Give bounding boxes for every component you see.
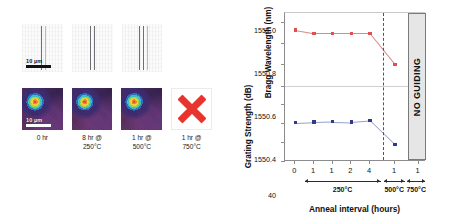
temperature-label: 750°C	[406, 186, 426, 193]
data-point	[350, 32, 353, 35]
waveguide-line-icon	[143, 26, 144, 70]
temperature-bracket-arrow	[305, 179, 308, 183]
caption-line-2: 750°C	[171, 143, 212, 152]
y-axis-tick-label: 40	[268, 191, 276, 200]
x-axis-tick-label: 4	[367, 166, 371, 175]
data-point	[331, 120, 334, 123]
sample-caption-0hr: 0 hr	[22, 134, 63, 160]
data-line-segment	[295, 122, 314, 124]
mode-noise-texture	[121, 88, 162, 130]
anneal-stability-chart: Bragg Wavelength (nm) Grating Strength (…	[222, 0, 462, 224]
x-axis-tick-label: 1	[392, 166, 396, 175]
waveguide-line-icon	[147, 26, 148, 70]
temperature-label: 500°C	[384, 186, 404, 193]
data-line-segment	[333, 33, 352, 34]
x-axis-tick: 1	[313, 160, 314, 164]
waveguide-line-icon	[90, 26, 91, 70]
caption-line-1: 8 hr @	[72, 134, 113, 143]
sample-caption-row: 0 hr 8 hr @ 250°C 1 hr @ 500°C 1 hr @ 75…	[22, 134, 212, 160]
x-axis-tick-label: 1	[415, 166, 419, 175]
y-axis-tick-label: 1551.0	[254, 26, 276, 35]
data-line-segment	[314, 33, 333, 34]
y-axis-tick: 25	[281, 161, 285, 162]
sample-caption-1hr-750c: 1 hr @ 750°C	[171, 134, 212, 160]
data-point	[368, 119, 371, 122]
data-point	[312, 120, 315, 123]
data-line-segment	[314, 122, 333, 123]
mode-profile-0hr: 10 µm	[22, 88, 63, 130]
waveguide-line-icon	[94, 26, 95, 70]
sample-caption-8hr-250c: 8 hr @ 250°C	[72, 134, 113, 160]
x-axis-line: 0112411	[284, 160, 425, 161]
mode-profile-8hr-250c	[72, 88, 113, 130]
microscope-image-1hr-500c	[122, 24, 163, 72]
mode-noise-texture	[72, 88, 113, 130]
data-point	[294, 121, 297, 124]
y-axis-tick: 40	[281, 104, 285, 105]
scale-bar-label: 10 µm	[26, 58, 66, 64]
x-axis-tick-label: 1	[330, 166, 334, 175]
data-point	[393, 143, 396, 146]
x-axis-tick: 2	[350, 160, 351, 164]
scale-bar-microscope: 10 µm	[26, 58, 66, 68]
no-guiding-label: NO GUIDING	[412, 57, 422, 116]
mode-profile-row: 10 µm	[22, 88, 212, 130]
scale-bar-mode: 10 µm	[26, 117, 51, 127]
x-axis-tick-label: 0	[292, 166, 296, 175]
mode-profile-1hr-500c	[121, 88, 162, 130]
temperature-axis: 250°C500°C750°C	[284, 178, 425, 188]
microscope-image-8hr-250c	[72, 24, 113, 72]
y-axis-tick-label: 1550.6	[254, 111, 276, 120]
y-axis-tick: 30	[281, 142, 285, 143]
plot-area: 1551.01550.81550.61550.440353025NO GUIDI…	[284, 12, 425, 160]
x-axis-tick: 1	[418, 160, 419, 164]
image-noise-texture	[72, 24, 113, 72]
x-axis-title: Anneal interval (hours)	[284, 204, 425, 214]
microscope-image-1hr-750c	[171, 24, 212, 72]
caption-line-1: 1 hr @	[171, 134, 212, 143]
temperature-label: 250°C	[333, 186, 353, 193]
temperature-bracket-arrow	[422, 179, 425, 183]
data-point	[331, 32, 334, 35]
y-axis-label-bragg: Bragg Wavelength (nm)	[264, 0, 273, 112]
data-line-segment	[295, 30, 314, 34]
y-axis-tick: 1550.6	[281, 64, 285, 65]
caption-line-2: 500°C	[122, 143, 163, 152]
x-axis-tick: 1	[332, 160, 333, 164]
caption-line-2: 250°C	[72, 143, 113, 152]
sample-caption-1hr-500c: 1 hr @ 500°C	[122, 134, 163, 160]
y-axis-tick-label: 1550.8	[254, 69, 276, 78]
x-axis-tick: 0	[294, 160, 295, 164]
data-point	[294, 28, 297, 31]
data-point	[350, 120, 353, 123]
y-axis-tick-label: 1550.4	[254, 154, 276, 163]
data-line-segment	[333, 122, 352, 123]
data-point	[312, 32, 315, 35]
scale-bar-line	[26, 124, 51, 127]
x-axis-tick: 4	[369, 160, 370, 164]
x-axis-tick: 1	[394, 160, 395, 164]
region-divider	[383, 13, 384, 160]
scale-bar-label: 10 µm	[26, 117, 51, 123]
data-line-segment	[351, 33, 370, 34]
x-axis-tick-label: 1	[311, 166, 315, 175]
x-axis-tick-label: 2	[348, 166, 352, 175]
data-point	[368, 32, 371, 35]
y-axis-tick: 35	[281, 123, 285, 124]
temperature-bracket	[305, 181, 381, 182]
sample-image-panel: 10 µm 10 µm	[0, 0, 222, 224]
no-guiding-marker	[171, 88, 212, 130]
scale-bar-line	[26, 65, 51, 68]
grid-line	[285, 86, 424, 87]
y-axis-label-strength: Grating Strength (dB)	[244, 66, 253, 186]
data-point	[393, 63, 396, 66]
caption-line-1: 0 hr	[22, 134, 63, 143]
temperature-bracket-arrow	[407, 179, 410, 183]
temperature-bracket-arrow	[384, 179, 387, 183]
figure-root: 10 µm 10 µm	[0, 0, 462, 224]
data-line-segment	[351, 120, 370, 123]
y-axis-tick: 1550.8	[281, 43, 285, 44]
no-guiding-region: NO GUIDING	[408, 13, 426, 160]
caption-line-1: 1 hr @	[122, 134, 163, 143]
temperature-bracket-arrow	[377, 179, 380, 183]
